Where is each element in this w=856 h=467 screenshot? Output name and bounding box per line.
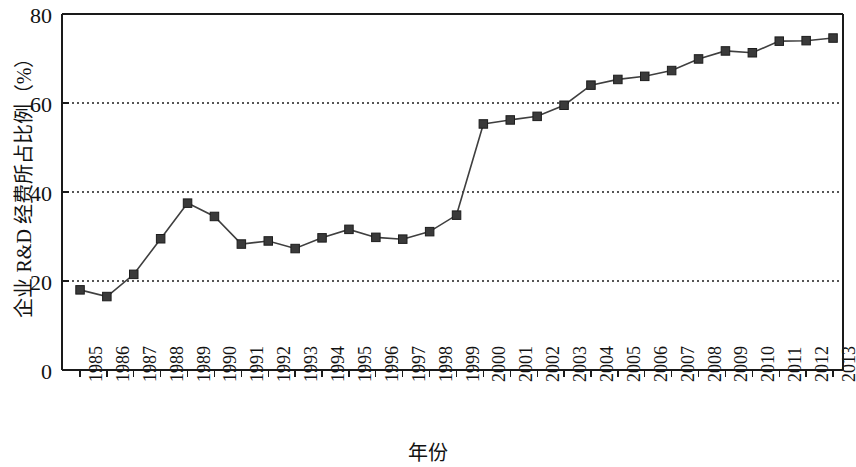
data-point-marker — [372, 233, 381, 242]
data-point-marker — [614, 75, 623, 84]
data-point-marker — [452, 211, 461, 220]
data-point-marker — [829, 34, 838, 43]
data-point-marker — [587, 81, 596, 90]
plot-area — [0, 0, 856, 467]
data-point-marker — [748, 49, 757, 58]
y-axis-ticks — [62, 14, 69, 370]
chart-figure: 企业 R&D 经费所占比例（%） 80 60 40 20 0 198519861… — [0, 0, 856, 467]
data-point-marker — [667, 66, 676, 75]
data-point-marker — [76, 286, 85, 295]
data-point-marker — [264, 237, 273, 246]
data-point-marker — [156, 235, 165, 244]
data-point-marker — [775, 37, 784, 46]
data-markers — [76, 34, 838, 301]
data-point-marker — [291, 244, 300, 253]
data-point-marker — [183, 199, 192, 208]
data-point-marker — [560, 101, 569, 110]
data-point-marker — [533, 112, 542, 121]
data-point-marker — [210, 212, 219, 221]
x-axis-ticks — [80, 370, 833, 377]
data-point-marker — [802, 36, 811, 45]
data-point-marker — [694, 55, 703, 64]
data-point-marker — [721, 47, 730, 56]
data-point-marker — [103, 292, 112, 301]
data-point-marker — [425, 227, 434, 236]
grid-lines — [62, 103, 843, 281]
data-point-marker — [641, 72, 650, 81]
data-point-marker — [130, 270, 139, 279]
data-point-marker — [345, 225, 354, 234]
data-point-marker — [479, 120, 488, 129]
data-point-marker — [318, 234, 327, 243]
data-line — [80, 38, 833, 297]
data-point-marker — [399, 235, 408, 244]
data-point-marker — [506, 116, 515, 125]
data-point-marker — [237, 240, 246, 249]
